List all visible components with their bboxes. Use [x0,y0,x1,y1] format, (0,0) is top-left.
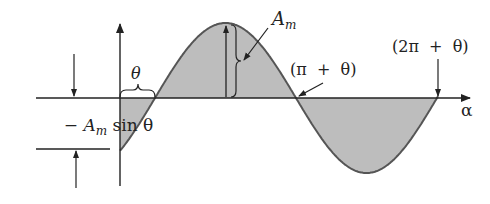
theta-brace-icon [120,84,155,97]
pi-plus-theta-pointer-arrow-icon [299,83,323,96]
sine-phase-diagram: Am θ (π + θ) (2π + θ) α − Am sin θ [0,0,490,204]
theta-label: θ [131,64,141,83]
two-pi-plus-theta-label: (2π + θ) [392,37,469,56]
pi-plus-theta-label: (π + θ) [290,60,356,79]
amplitude-label: Am [270,8,296,32]
neg-amplitude-sin-theta-label: − Am sin θ [26,115,180,138]
alpha-axis-label: α [461,100,473,120]
